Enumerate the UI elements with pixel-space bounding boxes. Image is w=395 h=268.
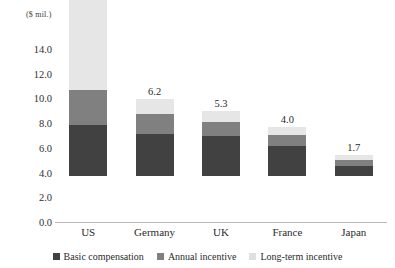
bar-slot: 6.2 [121,3,187,176]
bar-slot: 5.3 [188,3,254,176]
x-tick-label: US [55,226,121,238]
legend-label: Annual incentive [168,251,237,262]
bar-segment-ann[interactable] [202,122,240,137]
stacked-bar[interactable]: 14.3 [69,0,107,176]
legend-label: Long-term incentive [260,251,342,262]
bar-segment-ann[interactable] [69,90,107,126]
y-tick-label: 0.0 [6,217,52,228]
chart-legend: Basic compensationAnnual incentiveLong-t… [0,251,395,262]
bar-total-label: 6.2 [148,86,161,97]
stacked-bar-chart: ($ mil.) 14.012.010.08.06.04.02.00.0 14.… [0,0,395,268]
legend-label: Basic compensation [64,251,144,262]
x-axis-labels: USGermanyUKFranceJapan [55,226,387,246]
y-tick-label: 10.0 [6,93,52,104]
x-tick-label: Germany [121,226,187,238]
bar-segment-lt[interactable] [69,0,107,90]
bar-total-label: 5.3 [214,98,227,109]
y-axis-ticks: 14.012.010.08.06.04.02.00.0 [0,0,52,268]
legend-item[interactable]: Annual incentive [157,251,237,262]
y-tick-label: 6.0 [6,142,52,153]
y-tick-label: 12.0 [6,68,52,79]
stacked-bar[interactable]: 1.7 [335,155,373,176]
plot-area: 14.36.25.34.01.7 [55,0,387,222]
legend-swatch-icon [53,253,60,260]
bar-segment-basic[interactable] [335,166,373,176]
bar-segment-basic[interactable] [268,146,306,176]
x-tick-label: France [254,226,320,238]
bar-segment-basic[interactable] [69,125,107,176]
bar-slot: 14.3 [55,3,121,176]
x-axis-line [55,222,387,223]
bar-segment-lt[interactable] [268,127,306,136]
legend-item[interactable]: Long-term incentive [249,251,342,262]
legend-swatch-icon [249,253,256,260]
bar-total-label: 4.0 [281,114,294,125]
bar-slot: 1.7 [321,3,387,176]
legend-swatch-icon [157,253,164,260]
bar-segment-lt[interactable] [136,99,174,114]
x-tick-label: UK [188,226,254,238]
bar-slot: 4.0 [254,3,320,176]
stacked-bar[interactable]: 4.0 [268,127,306,176]
x-tick-label: Japan [321,226,387,238]
bar-segment-ann[interactable] [136,114,174,134]
bar-segment-basic[interactable] [136,134,174,176]
bar-total-label: 1.7 [347,142,360,153]
bar-segment-basic[interactable] [202,136,240,176]
stacked-bar[interactable]: 5.3 [202,111,240,176]
y-tick-label: 14.0 [6,44,52,55]
bar-segment-lt[interactable] [202,111,240,122]
y-tick-label: 8.0 [6,118,52,129]
y-tick-label: 2.0 [6,192,52,203]
bar-segment-ann[interactable] [268,135,306,146]
legend-item[interactable]: Basic compensation [53,251,144,262]
stacked-bar[interactable]: 6.2 [136,99,174,176]
y-tick-label: 4.0 [6,167,52,178]
